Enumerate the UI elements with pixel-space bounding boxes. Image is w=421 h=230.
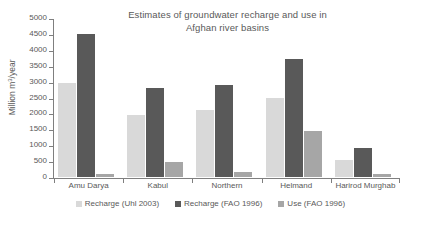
- y-axis-label: Million m3/year: [7, 42, 18, 132]
- legend-swatch: [76, 201, 82, 207]
- legend-label: Recharge (FAO 1996): [184, 199, 262, 208]
- plot-area: 0500100015002000250030003500400045005000…: [54, 19, 400, 178]
- legend-item[interactable]: Use (FAO 1996): [278, 199, 345, 208]
- bar-group: Kabul: [123, 18, 192, 177]
- y-tick-label: 3500: [29, 61, 47, 70]
- bar[interactable]: [304, 131, 322, 177]
- y-tick-label: 500: [34, 156, 47, 165]
- y-tick-label: 4000: [29, 45, 47, 54]
- bar[interactable]: [96, 174, 114, 177]
- y-tick-label: 3000: [29, 77, 47, 86]
- y-axis-label-suffix: /year: [7, 60, 17, 79]
- bar[interactable]: [77, 34, 95, 177]
- bar[interactable]: [127, 115, 145, 177]
- legend-label: Use (FAO 1996): [287, 199, 345, 208]
- y-tick-label: 2000: [29, 108, 47, 117]
- bar[interactable]: [234, 172, 252, 177]
- bar[interactable]: [58, 83, 76, 177]
- y-tick-label: 0: [43, 172, 47, 181]
- y-tick-label: 1000: [29, 140, 47, 149]
- bar[interactable]: [335, 160, 353, 177]
- bar[interactable]: [354, 148, 372, 177]
- legend-swatch: [175, 201, 181, 207]
- legend-item[interactable]: Recharge (Uhl 2003): [76, 199, 159, 208]
- bar[interactable]: [285, 59, 303, 177]
- y-tick-label: 4500: [29, 29, 47, 38]
- x-axis-line: [53, 178, 400, 179]
- y-tick-label: 5000: [29, 13, 47, 22]
- y-tick-label: 2500: [29, 93, 47, 102]
- bar-group: Helmand: [262, 18, 331, 177]
- chart-legend: Recharge (Uhl 2003)Recharge (FAO 1996)Us…: [0, 199, 421, 208]
- bar[interactable]: [215, 85, 233, 177]
- legend-item[interactable]: Recharge (FAO 1996): [175, 199, 262, 208]
- chart-container: Estimates of groundwater recharge and us…: [0, 0, 421, 230]
- y-tick-label: 1500: [29, 124, 47, 133]
- y-axis-label-superscript: 3: [7, 78, 13, 81]
- x-axis-category-label: Harirod Murghab: [315, 181, 415, 190]
- bar[interactable]: [196, 110, 214, 177]
- legend-label: Recharge (Uhl 2003): [85, 199, 159, 208]
- bar-group: Harirod Murghab: [331, 18, 400, 177]
- y-axis-label-prefix: Million m: [7, 82, 17, 116]
- bar[interactable]: [373, 174, 391, 177]
- bar-group: Northern: [192, 18, 261, 177]
- bar[interactable]: [165, 162, 183, 177]
- legend-swatch: [278, 201, 284, 207]
- bar[interactable]: [146, 88, 164, 177]
- bar-group: Amu Darya: [54, 18, 123, 177]
- bar[interactable]: [266, 98, 284, 178]
